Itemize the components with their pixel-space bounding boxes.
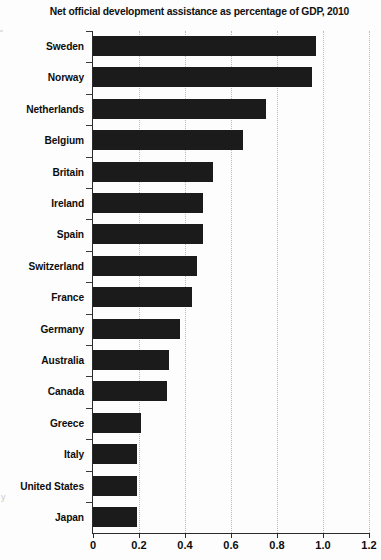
y-axis-tick — [86, 439, 92, 440]
category-label: Australia — [0, 345, 84, 376]
chart-row: Spain — [0, 219, 381, 250]
bar-united-states — [93, 476, 137, 496]
category-label: Ireland — [0, 188, 84, 219]
category-label: Germany — [0, 314, 84, 345]
x-axis-tick-label: 0.8 — [257, 539, 297, 551]
chart-row: Canada — [0, 376, 381, 407]
bar-spain — [93, 224, 203, 244]
chart-row: Italy — [0, 439, 381, 470]
bar-netherlands — [93, 99, 266, 119]
y-axis-tick — [86, 125, 92, 126]
category-label: Greece — [0, 408, 84, 439]
chart-figure: Net official development assistance as p… — [0, 0, 381, 560]
bar-britain — [93, 162, 213, 182]
x-axis-tick — [277, 533, 278, 538]
bar-sweden — [93, 36, 316, 56]
y-axis-tick — [86, 376, 92, 377]
bar-belgium — [93, 130, 243, 150]
y-axis-tick — [86, 62, 92, 63]
category-label: France — [0, 282, 84, 313]
category-label: Netherlands — [0, 94, 84, 125]
y-axis-tick — [86, 282, 92, 283]
category-label: Sweden — [0, 31, 84, 62]
chart-row: Ireland — [0, 188, 381, 219]
x-axis-tick — [231, 533, 232, 538]
chart-row: Japan — [0, 502, 381, 533]
y-axis-tick — [86, 157, 92, 158]
bar-norway — [93, 67, 312, 87]
category-label: Italy — [0, 439, 84, 470]
x-axis-tick-label: 0 — [73, 539, 113, 551]
category-label: Spain — [0, 219, 84, 250]
chart-row: Britain — [0, 157, 381, 188]
y-axis-tick — [86, 94, 92, 95]
category-label: Japan — [0, 502, 84, 533]
chart-row: Belgium — [0, 125, 381, 156]
y-axis-tick — [86, 502, 92, 503]
chart-row: United States — [0, 471, 381, 502]
bar-france — [93, 287, 192, 307]
chart-title: Net official development assistance as p… — [0, 6, 381, 18]
chart-row: Sweden — [0, 31, 381, 62]
y-axis-tick — [86, 345, 92, 346]
x-axis-tick — [93, 533, 94, 538]
bar-italy — [93, 444, 137, 464]
y-axis-tick — [86, 314, 92, 315]
x-axis-tick — [369, 533, 370, 538]
x-axis-tick-label: 0.4 — [165, 539, 205, 551]
x-axis-tick — [185, 533, 186, 538]
category-label: Belgium — [0, 125, 84, 156]
chart-row: Greece — [0, 408, 381, 439]
chart-row: Norway — [0, 62, 381, 93]
y-axis-tick — [86, 188, 92, 189]
category-label: Switzerland — [0, 251, 84, 282]
x-axis-tick — [139, 533, 140, 538]
bar-australia — [93, 350, 169, 370]
y-axis-tick — [86, 219, 92, 220]
category-label: Canada — [0, 376, 84, 407]
x-axis-tick-label: 1.2 — [349, 539, 381, 551]
chart-row: Netherlands — [0, 94, 381, 125]
chart-row: Germany — [0, 314, 381, 345]
y-axis-tick — [86, 408, 92, 409]
chart-row: Australia — [0, 345, 381, 376]
chart-row: Switzerland — [0, 251, 381, 282]
category-label: Britain — [0, 157, 84, 188]
x-axis-tick-label: 1.0 — [303, 539, 343, 551]
x-axis-tick-label: 0.2 — [119, 539, 159, 551]
bar-canada — [93, 381, 167, 401]
x-axis-tick-label: 0.6 — [211, 539, 251, 551]
y-axis-tick — [86, 471, 92, 472]
bar-switzerland — [93, 256, 197, 276]
bar-greece — [93, 413, 141, 433]
y-axis-tick — [86, 251, 92, 252]
bar-ireland — [93, 193, 203, 213]
x-axis-tick — [323, 533, 324, 538]
category-label: Norway — [0, 62, 84, 93]
y-axis-tick — [86, 31, 92, 32]
category-label: United States — [0, 471, 84, 502]
bar-japan — [93, 507, 137, 527]
bar-germany — [93, 319, 180, 339]
chart-row: France — [0, 282, 381, 313]
